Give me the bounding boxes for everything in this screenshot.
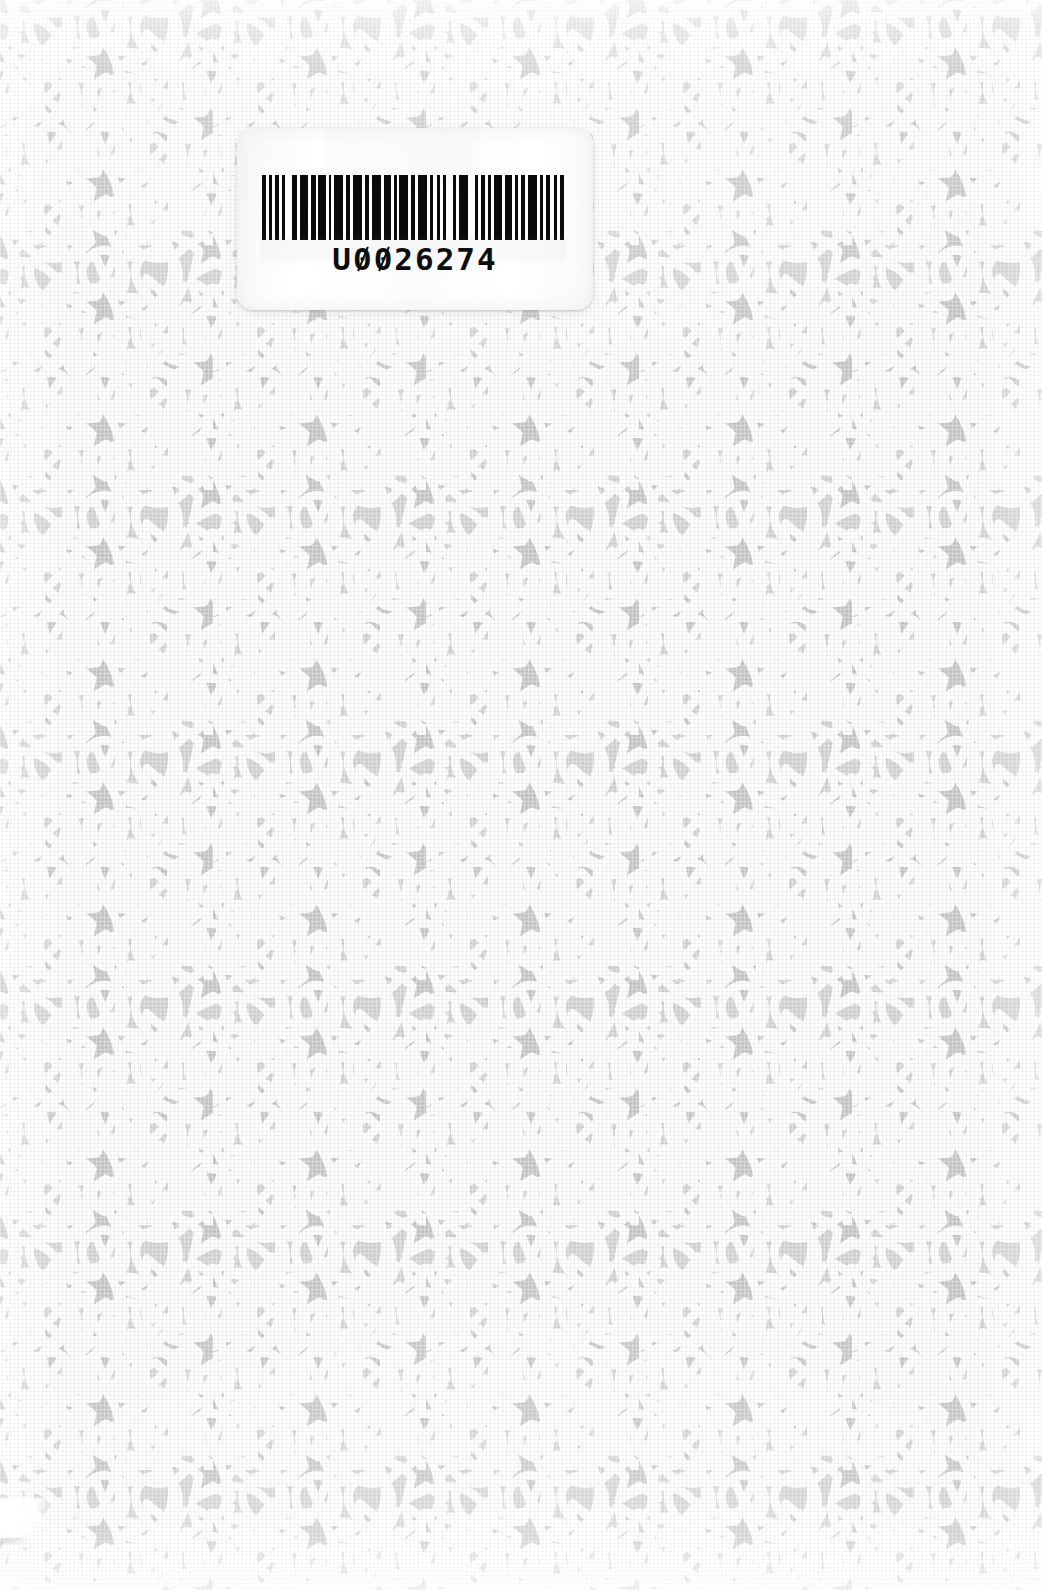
barcode-char: 7 <box>456 241 477 277</box>
barcode-symbol <box>262 175 568 240</box>
barcode-bar <box>505 175 512 240</box>
barcode-bar <box>459 175 468 240</box>
barcode-char: 6 <box>415 241 436 277</box>
barcode-char-zero: 0 <box>374 244 395 275</box>
scanned-book-cover: U0026274 <box>0 0 1042 1590</box>
barcode-char: 4 <box>477 241 498 277</box>
barcode-bar <box>300 175 309 240</box>
barcode-bar <box>384 175 391 240</box>
library-barcode-label[interactable]: U0026274 <box>237 128 593 310</box>
barcode-space <box>285 175 292 240</box>
barcode-bar <box>528 175 537 240</box>
barcode-bar <box>334 175 343 240</box>
barcode-bar <box>399 175 408 240</box>
barcode-char: 2 <box>394 241 415 277</box>
barcode-bar <box>353 175 362 240</box>
barcode-char: U <box>332 241 353 277</box>
barcode-space <box>564 175 567 240</box>
barcode-space <box>468 175 475 240</box>
barcode-bar <box>372 175 381 240</box>
barcode-bar <box>418 175 427 240</box>
barcode-bar <box>318 175 325 240</box>
barcode-char-zero: 0 <box>353 244 374 275</box>
barcode-human-readable-text: U0026274 <box>237 244 593 275</box>
barcode-bar <box>494 175 503 240</box>
barcode-space <box>446 175 453 240</box>
barcode-char: 2 <box>436 241 457 277</box>
